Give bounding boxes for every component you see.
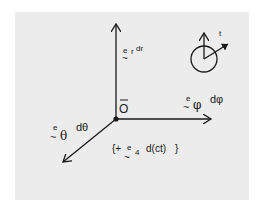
svg-text:{+: {+ — [112, 143, 121, 154]
label-e-r-dr: e ~ r dr — [122, 44, 143, 64]
label-e-phi-dphi: e ~ φ dφ — [183, 93, 223, 113]
axis-theta-arrow — [63, 119, 116, 162]
label-e4-dct: {+ e ~ 4 d(ct) } — [112, 143, 179, 163]
svg-text:dθ: dθ — [76, 121, 88, 133]
label-e-theta-dtheta: e ~ θ dθ — [50, 121, 88, 143]
origin-dot — [113, 116, 118, 121]
origin-label: O — [119, 100, 128, 116]
tilde-icon: ~ — [124, 152, 130, 163]
clock-time-icon: t — [191, 29, 228, 72]
svg-text:d(ct): d(ct) — [146, 143, 166, 154]
svg-text:φ: φ — [193, 98, 201, 112]
basis-vector-diagram: O e ~ r dr e ~ φ dφ e ~ θ dθ {+ e ~ 4 d(… — [0, 0, 262, 212]
tilde-icon: ~ — [183, 101, 189, 113]
svg-text:θ: θ — [60, 129, 67, 143]
tilde-icon: ~ — [122, 53, 128, 64]
svg-text:dφ: dφ — [210, 93, 223, 105]
svg-text:dr: dr — [136, 44, 143, 53]
svg-text:t: t — [219, 29, 222, 38]
tilde-icon: ~ — [50, 131, 56, 143]
svg-text:O: O — [119, 102, 128, 116]
svg-text:r: r — [131, 47, 134, 56]
svg-text:e: e — [127, 143, 132, 152]
svg-text:}: } — [175, 143, 179, 154]
svg-text:4: 4 — [135, 148, 140, 157]
